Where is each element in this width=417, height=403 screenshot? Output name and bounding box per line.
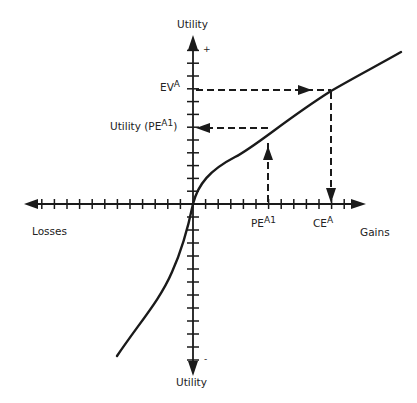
y-axis-bottom-label: Utility	[176, 377, 207, 388]
y-axis-top-label: Utility	[177, 19, 208, 30]
utility-pe-label-base: Utility (PE	[110, 120, 161, 132]
pe-label: PEA1	[251, 218, 276, 229]
x-axis-left-arrow-icon	[24, 199, 38, 209]
ev-right-arrow-icon	[298, 85, 312, 95]
utility-pe-label: Utility (PEA1)	[110, 121, 177, 132]
ce-label-base: CE	[313, 217, 327, 229]
x-axis-right-arrow-icon	[351, 199, 366, 209]
y-axis-up-arrow-icon	[188, 35, 198, 50]
utility-pe-left-arrow-icon	[196, 123, 210, 133]
ce-label: CEA	[313, 218, 333, 229]
ce-label-sup: A	[327, 215, 333, 225]
y-negative-marker: -	[204, 355, 207, 364]
ev-label-base: EV	[160, 81, 174, 93]
y-positive-marker: +	[203, 45, 211, 54]
utility-pe-label-close: )	[173, 120, 177, 132]
x-axis-left-label: Losses	[32, 226, 67, 237]
ev-label: EVA	[160, 82, 180, 93]
ev-label-sup: A	[174, 79, 180, 89]
pe-label-base: PE	[251, 217, 264, 229]
y-axis-down-arrow-icon	[188, 361, 198, 376]
pe-label-sup: A1	[264, 215, 276, 225]
x-axis-right-label: Gains	[360, 227, 390, 238]
pe-up-arrow-icon	[263, 146, 273, 160]
utility-pe-label-sup: A1	[161, 118, 173, 128]
ce-down-arrow-icon	[326, 188, 336, 203]
utility-diagram	[0, 0, 417, 403]
